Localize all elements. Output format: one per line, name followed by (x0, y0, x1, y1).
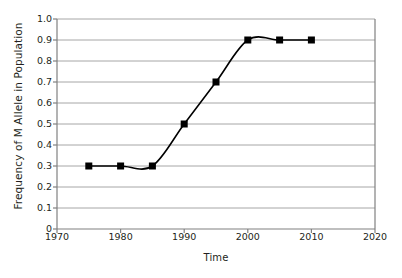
data-point-marker (149, 163, 156, 170)
x-axis-title: Time (57, 252, 375, 263)
data-point-marker (181, 121, 188, 128)
data-point-marker (244, 37, 251, 44)
data-point-marker (117, 163, 124, 170)
data-point-marker (308, 37, 315, 44)
x-tick-label: 1990 (159, 232, 209, 242)
x-tick-label: 2010 (286, 232, 336, 242)
data-point-marker (213, 79, 220, 86)
data-point-marker (85, 163, 92, 170)
chart-figure: Frequency of M Allele in Population 00.1… (0, 0, 402, 278)
x-tick-label: 1980 (96, 232, 146, 242)
x-tick-label: 2000 (223, 232, 273, 242)
x-tick-label: 1970 (32, 232, 82, 242)
data-point-marker (276, 37, 283, 44)
gridlines (57, 19, 375, 208)
x-tick-label: 2020 (350, 232, 400, 242)
